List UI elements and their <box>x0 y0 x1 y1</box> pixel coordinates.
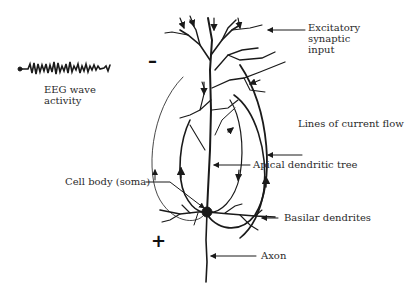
label-cell-body: Cell body (soma) <box>65 176 150 187</box>
label-basilar-dendrites: Basilar dendrites <box>284 212 371 223</box>
label-axon: Axon <box>261 250 286 261</box>
negative-sign: – <box>148 50 157 71</box>
label-apical-dendritic-tree: Apical dendritic tree <box>253 159 358 170</box>
eeg-wave-icon <box>18 62 110 74</box>
neuron-diagram: – + Excitatory synaptic input EEG wave a… <box>0 0 407 293</box>
label-lines-of-current-flow: Lines of current flow <box>298 118 404 129</box>
label-eeg-wave-activity: EEG wave activity <box>44 84 96 106</box>
label-excitatory-synaptic-input: Excitatory synaptic input <box>308 22 360 55</box>
positive-sign: + <box>151 230 166 251</box>
